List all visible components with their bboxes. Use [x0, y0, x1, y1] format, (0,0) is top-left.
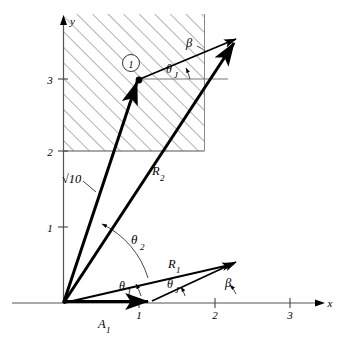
A1-label: A 1 — [97, 317, 111, 335]
R2-label-base: R — [151, 164, 160, 178]
theta-J-upper-base: θ — [166, 62, 172, 76]
R2-label-sub: 2 — [160, 173, 165, 183]
R1-label: R 1 — [167, 257, 181, 275]
R1-vector — [64, 264, 235, 303]
theta-J-lower-base: θ — [167, 277, 173, 291]
x-tick-label-3: 3 — [286, 309, 293, 321]
R1-label-sub: 1 — [176, 265, 181, 275]
theta-2-sub: 2 — [140, 242, 145, 252]
A1-label-base: A — [97, 317, 106, 331]
sqrt10-leader — [83, 181, 96, 192]
beta-label-upper: β — [185, 36, 193, 50]
theta-J-arc-lower — [181, 287, 185, 296]
R1-label-base: R — [167, 257, 176, 271]
theta-1-sub: 1 — [127, 287, 131, 297]
point-one-dot — [136, 77, 143, 84]
R2-label: R 2 — [151, 164, 165, 183]
x-axis-arrowhead — [315, 300, 325, 307]
lower-link-vector — [152, 262, 236, 301]
vector-diagram-svg: y x 3 2 1 1 2 3 1 √ — [0, 0, 345, 348]
theta-2-base: θ — [131, 232, 138, 247]
y-tick-label-2: 2 — [47, 146, 53, 158]
theta-1-base: θ — [119, 279, 125, 293]
figure-canvas: y x 3 2 1 1 2 3 1 √ — [0, 0, 345, 348]
A1-label-sub: 1 — [106, 325, 111, 335]
x-tick-label-1: 1 — [136, 309, 142, 321]
x-axis-label: x — [327, 297, 333, 309]
y-axis-label: y — [69, 15, 75, 27]
x-tick-label-2: 2 — [212, 309, 218, 321]
beta-label-lower: β — [224, 276, 232, 290]
theta-J-lower-sub: J — [175, 285, 180, 295]
y-tick-label-1: 1 — [47, 222, 53, 234]
sqrt10-label: √10 — [62, 172, 82, 186]
hatched-region — [64, 14, 205, 151]
y-tick-label-3: 3 — [46, 74, 53, 86]
point-one-label: 1 — [129, 59, 134, 70]
